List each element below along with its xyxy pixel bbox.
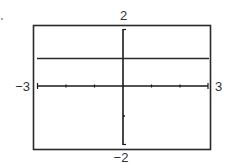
y-axis [123, 29, 126, 145]
marker-dot [1, 18, 3, 20]
xmax-label: 3 [215, 79, 222, 94]
graph-window: 2 −3 3 −2 [0, 0, 231, 164]
ymin-label: −2 [114, 150, 129, 164]
ymax-label: 2 [120, 8, 127, 23]
plot-frame [34, 26, 211, 150]
xmin-label: −3 [15, 79, 30, 94]
